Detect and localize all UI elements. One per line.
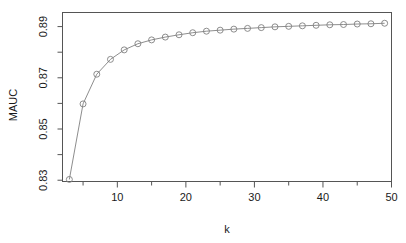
y-axis-tick-label: 0.87: [37, 67, 49, 88]
y-axis-tick-label: 0.89: [37, 16, 49, 37]
x-axis-tick-label: 40: [317, 191, 329, 203]
y-axis-tick-label: 0.85: [37, 118, 49, 139]
x-axis-title: k: [224, 223, 230, 235]
y-axis-tick-label: 0.83: [37, 170, 49, 191]
y-axis-title: MAUC: [7, 89, 19, 121]
chart-background: [0, 0, 406, 243]
x-axis-tick-label: 50: [385, 191, 397, 203]
chart-screenshot: 0.830.850.870.89 1020304050 k MAUC: [0, 0, 406, 243]
x-axis-tick-label: 20: [180, 191, 192, 203]
x-axis-tick-label: 30: [248, 191, 260, 203]
x-axis-tick-label: 10: [111, 191, 123, 203]
mauc-vs-k-line-chart: 0.830.850.870.89 1020304050 k MAUC: [0, 0, 406, 243]
